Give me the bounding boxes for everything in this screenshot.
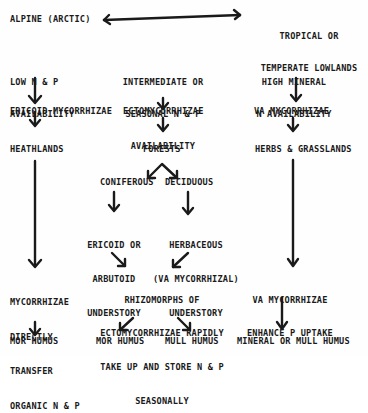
mull-humus-label: MULL HUMUS	[165, 336, 219, 347]
va-enhance-p-label: VA MYCORRHIZAE ENHANCE P UPTAKE	[240, 272, 340, 362]
ericoid-understory-line1: ERICOID OR	[78, 240, 150, 251]
middle-mor-humus-label: MOR HUMUS	[96, 336, 144, 347]
herbaceous-line1: HERBACEOUS	[152, 240, 240, 251]
forests-label: FORESTS	[143, 144, 181, 155]
down-arrow-icon	[29, 161, 41, 267]
rhizomorphs-line1: RHIZOMORPHS OF	[88, 295, 236, 306]
double-headed-arrow-icon	[104, 10, 240, 24]
ectomycorrhizae-label: ECTOMYCORRHIZAE	[123, 106, 204, 117]
tropical-line1: TROPICAL OR	[250, 31, 368, 42]
low-np-availability-label: LOW N & P AVAILABILITY	[10, 56, 75, 141]
va-mycorrhizae-label: VA MYCORRHIZAE	[254, 106, 329, 117]
heathlands-label: HEATHLANDS	[10, 144, 64, 155]
alpine-arctic-label: ALPINE (ARCTIC)	[10, 14, 91, 25]
rhizomorphs-line4: SEASONALLY	[88, 396, 236, 407]
mineral-mull-humus-label: MINERAL OR MULL HUMUS	[237, 336, 350, 347]
down-arrow-icon	[109, 192, 119, 211]
down-arrow-icon	[288, 160, 298, 266]
rhizomorphs-line3: TAKE UP AND STORE N & P	[88, 362, 236, 373]
intermediate-line1: INTERMEDIATE OR	[113, 77, 213, 88]
high-mineral-availability-label: HIGH MINERAL N AVAILABILITY	[250, 56, 338, 141]
ericoid-mycorrhizae-label: ERICOID MYCORRHIZAE	[10, 106, 112, 117]
transfer-line3: TRANSFER	[10, 366, 80, 378]
coniferous-label: CONIFEROUS	[100, 177, 154, 188]
high-mineral-line1: HIGH MINERAL	[250, 77, 338, 88]
deciduous-label: DECIDUOUS	[165, 177, 213, 188]
low-np-line1: LOW N & P	[10, 77, 75, 88]
transfer-line1: MYCORRHIZAE	[10, 297, 80, 309]
herbs-grasslands-label: HERBS & GRASSLANDS	[255, 144, 352, 155]
transfer-line4: ORGANIC N & P	[10, 401, 80, 413]
left-mor-humus-label: MOR HUMUS	[10, 336, 58, 347]
down-arrow-icon	[183, 192, 193, 214]
va-enhance-line1: VA MYCORRHIZAE	[240, 295, 340, 306]
